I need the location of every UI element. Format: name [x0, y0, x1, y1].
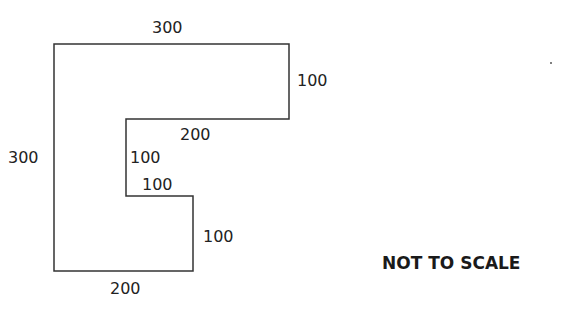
stray-dot [550, 62, 552, 64]
label-bottom: 200 [110, 281, 141, 297]
label-top: 300 [152, 20, 183, 36]
not-to-scale-note: NOT TO SCALE [382, 253, 520, 273]
label-notch-top: 100 [142, 177, 173, 193]
label-right-upper: 100 [297, 73, 328, 89]
label-inner-left: 100 [130, 150, 161, 166]
label-left: 300 [8, 150, 39, 166]
label-inner-top: 200 [180, 127, 211, 143]
label-right-lower: 100 [203, 229, 234, 245]
